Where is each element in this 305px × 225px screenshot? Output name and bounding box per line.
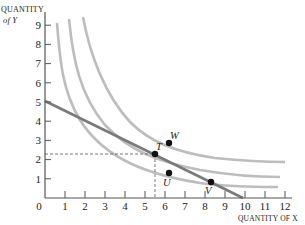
x-tick-label: 12	[280, 200, 291, 212]
x-tick-label: 6	[162, 200, 168, 212]
indifference-curve-2	[69, 19, 280, 177]
x-tick-label: 1	[62, 200, 68, 212]
x-ticks	[65, 191, 285, 198]
x-axis-title: Quantity of X	[238, 214, 298, 223]
point-label-V: V	[205, 185, 213, 196]
y-tick-label: 3	[36, 134, 42, 146]
y-tick-label: 8	[36, 38, 42, 50]
y-ticks	[45, 25, 51, 179]
y-axis-title-line2: of Y	[3, 15, 18, 25]
x-tick-label: 3	[102, 200, 108, 212]
x-tick-label: 11	[260, 200, 271, 212]
point-U	[166, 170, 172, 176]
x-tick-label: 4	[122, 200, 128, 212]
x-tick-label: 2	[82, 200, 88, 212]
y-tick-label: 6	[36, 77, 42, 89]
y-tick-label: 9	[36, 19, 42, 31]
x-tick-label: 10	[240, 200, 252, 212]
x-tick-label: 9	[222, 200, 228, 212]
x-tick-label: 7	[182, 200, 188, 212]
x-tick-label: 8	[202, 200, 208, 212]
y-tick-label: 4	[36, 115, 42, 127]
y-tick-label: 5	[36, 96, 42, 108]
point-label-U: U	[163, 177, 172, 188]
indifference-chart: 1 2 3 4 5 6 7 8 9 0 1 2 3 4 5 6 7 8 9 10…	[0, 0, 305, 225]
y-tick-label: 1	[36, 173, 42, 185]
indifference-curve-3	[83, 17, 285, 162]
origin-label: 0	[36, 200, 42, 212]
y-tick-label: 2	[36, 153, 42, 165]
x-tick-label: 5	[142, 200, 148, 212]
y-axis-title-line1: Quantity	[1, 5, 44, 14]
point-label-W: W	[170, 130, 180, 141]
y-tick-label: 7	[36, 57, 42, 69]
